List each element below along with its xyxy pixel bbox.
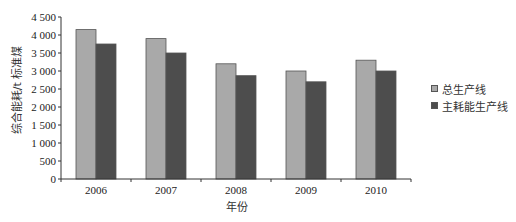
x-tick-label: 2007: [155, 184, 178, 196]
bar-2006-1: [96, 44, 116, 179]
x-tick-label: 2010: [365, 184, 388, 196]
bars-group: [76, 30, 396, 179]
y-tick-label: 4 500: [31, 11, 56, 23]
legend-label-total: 总生产线: [442, 81, 486, 97]
bar-2009-0: [286, 71, 306, 179]
y-tick-label: 0: [51, 173, 57, 185]
legend-item-total: 总生产线: [431, 80, 508, 97]
bar-2007-1: [166, 53, 186, 179]
bar-2009-1: [306, 82, 326, 179]
bar-2010-0: [356, 60, 376, 179]
y-axis-title: 综合能耗/t 标准煤: [10, 46, 24, 135]
x-ticks: 20062007200820092010: [61, 179, 411, 196]
bar-2007-0: [146, 39, 166, 179]
y-ticks: 05001 0001 5002 0002 5003 0003 5004 0004…: [31, 11, 61, 185]
bar-2008-1: [236, 76, 256, 179]
y-tick-label: 1 000: [31, 137, 56, 149]
y-tick-label: 3 000: [31, 65, 56, 77]
x-tick-label: 2008: [225, 184, 248, 196]
y-tick-label: 4 000: [31, 29, 56, 41]
legend-swatch-total: [431, 85, 438, 92]
bar-2010-1: [376, 71, 396, 179]
y-tick-label: 500: [40, 155, 57, 167]
legend-label-main: 主耗能生产线: [442, 98, 508, 114]
legend: 总生产线 主耗能生产线: [431, 80, 508, 114]
y-tick-label: 3 500: [31, 47, 56, 59]
y-tick-label: 1 500: [31, 119, 56, 131]
x-axis-title: 年份: [226, 200, 248, 214]
x-tick-label: 2009: [295, 184, 318, 196]
y-tick-label: 2 500: [31, 83, 56, 95]
legend-item-main: 主耗能生产线: [431, 97, 508, 114]
bar-2008-0: [216, 64, 236, 179]
bar-2006-0: [76, 30, 96, 179]
legend-swatch-main: [431, 102, 438, 109]
x-tick-label: 2006: [85, 184, 108, 196]
y-tick-label: 2 000: [31, 101, 56, 113]
